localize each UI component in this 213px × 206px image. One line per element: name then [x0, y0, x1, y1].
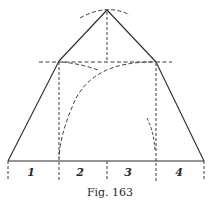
apex-arc [80, 10, 130, 18]
large-quarter-arc [59, 62, 152, 158]
outline-polygon [8, 10, 204, 161]
segment-label-4: 4 [175, 166, 183, 179]
left-shoulder-arc [62, 62, 98, 70]
left-upper-edge [59, 10, 107, 61]
right-lower-edge [156, 62, 204, 161]
geometric-construction-diagram: 1 2 3 4 Fig. 163 [0, 0, 213, 206]
left-lower-edge [8, 61, 59, 161]
segment-label-2: 2 [75, 166, 84, 179]
right-small-arc [147, 118, 155, 150]
segment-label-1: 1 [27, 166, 35, 179]
segment-label-3: 3 [124, 166, 132, 179]
right-upper-edge [107, 10, 156, 62]
figure-caption: Fig. 163 [87, 186, 133, 199]
